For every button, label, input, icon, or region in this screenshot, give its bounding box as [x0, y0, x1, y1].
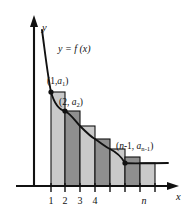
dot-point-1	[48, 89, 53, 94]
tick-label-n: n	[142, 195, 147, 206]
point-label-n-subscript: n-1	[141, 145, 150, 152]
y-axis-arrow-icon	[30, 15, 38, 27]
integral-test-figure: y x y = f (x) (1,a1) (2, a2) (n-1, an-1)…	[0, 0, 194, 218]
figure-canvas: y x y = f (x) (1,a1) (2, a2) (n-1, an-1)…	[0, 0, 194, 218]
point-label-n-minus-1: (n-1, an-1)	[116, 141, 153, 152]
tick-label-3: 3	[78, 195, 83, 206]
dot-point-n-minus-1	[122, 160, 127, 165]
point-label-n-suffix: )	[150, 141, 153, 152]
x-axis-arrow-icon	[167, 182, 179, 190]
point-label-1-prefix: (1,	[47, 76, 57, 87]
tick-label-4: 4	[93, 195, 98, 206]
bar-4	[95, 139, 110, 186]
bar-6	[125, 157, 140, 186]
point-label-2-suffix: )	[80, 97, 83, 108]
point-label-2-prefix: (2,	[59, 97, 72, 108]
x-axis-label: x	[175, 191, 181, 202]
bar-3	[80, 126, 95, 186]
y-axis-label: y	[41, 22, 47, 33]
point-label-1: (1,a1)	[47, 76, 69, 87]
tick-label-2: 2	[63, 195, 68, 206]
point-label-1-suffix: )	[65, 76, 68, 87]
tick-label-1: 1	[49, 195, 54, 206]
point-label-n-mid: -1,	[124, 141, 137, 151]
point-label-2: (2, a2)	[59, 97, 83, 108]
bar-7	[140, 163, 155, 186]
dot-point-2	[62, 108, 67, 113]
function-label: y = f (x)	[57, 43, 91, 55]
